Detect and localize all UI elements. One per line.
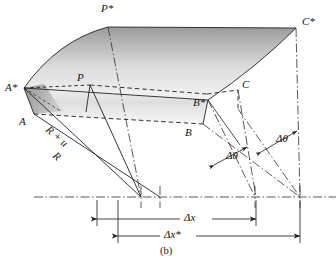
figure-caption: (b) <box>160 246 172 257</box>
label-delta-x-star: Δx* <box>164 229 181 240</box>
dashdot-cstar-axis <box>296 28 300 197</box>
label-p: P <box>77 72 84 83</box>
label-delta-theta-2: Δθ <box>276 133 288 144</box>
dimension-lines <box>97 200 300 243</box>
line-bstar-pivot <box>208 100 240 145</box>
shaded-body-top-face <box>24 27 296 100</box>
label-c-star: C* <box>302 16 315 27</box>
label-p-star: P* <box>101 3 113 14</box>
label-a-star: A* <box>5 82 17 93</box>
label-b-star: B* <box>193 97 205 108</box>
label-a: A <box>19 116 26 127</box>
dashdot-c-rightpivot <box>238 109 300 197</box>
label-delta-x: Δx <box>184 212 195 223</box>
label-delta-theta-1: Δθ <box>226 150 238 161</box>
label-b: B <box>185 127 192 138</box>
label-c: C <box>242 79 249 90</box>
figure-container: P* C* A* P B* C A B R + u R Δθ Δθ Δx Δx*… <box>0 0 336 267</box>
